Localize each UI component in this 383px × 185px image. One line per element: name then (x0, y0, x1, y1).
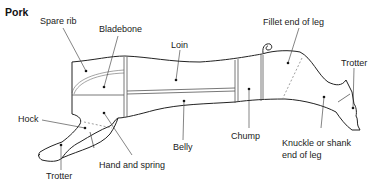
label-loin: Loin (171, 40, 188, 50)
label-bladebone: Bladebone (99, 24, 142, 34)
label-knuckle-line1: Knuckle or shank (282, 138, 352, 148)
label-trotter-hind: Trotter (341, 58, 367, 68)
label-knuckle-line2: end of leg (282, 150, 322, 160)
pork-cuts-diagram: Pork (0, 0, 383, 185)
leader-lines (42, 28, 354, 170)
label-trotter-fore: Trotter (46, 171, 72, 181)
label-hand-and-spring: Hand and spring (99, 160, 165, 170)
label-fillet-end-of-leg: Fillet end of leg (263, 17, 324, 27)
cut-labels: Spare rib Bladebone Loin Fillet end of l… (18, 16, 367, 181)
label-hock: Hock (18, 114, 39, 124)
label-chump: Chump (231, 131, 260, 141)
label-belly: Belly (173, 142, 193, 152)
label-spare-rib: Spare rib (40, 16, 77, 26)
diagram-title: Pork (5, 6, 29, 18)
